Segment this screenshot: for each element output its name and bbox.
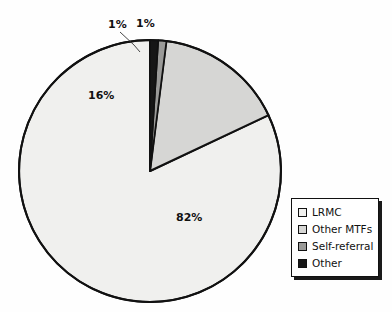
- legend-swatch-other: [298, 259, 307, 268]
- legend-item-lrmc[interactable]: LRMC: [298, 204, 373, 220]
- legend-swatch-other-mtfs: [298, 225, 307, 234]
- slice-label-other: 1%: [136, 17, 155, 30]
- chart-legend: LRMC Other MTFs Self-referral Other: [291, 198, 379, 277]
- legend-swatch-lrmc: [298, 208, 307, 217]
- slice-label-lrmc: 82%: [176, 211, 202, 224]
- legend-label-self-referral: Self-referral: [312, 240, 373, 252]
- legend-swatch-self-referral: [298, 242, 307, 251]
- legend-label-lrmc: LRMC: [312, 206, 342, 218]
- legend-item-other-mtfs[interactable]: Other MTFs: [298, 221, 373, 237]
- legend-item-self-referral[interactable]: Self-referral: [298, 238, 373, 254]
- legend-label-other: Other: [312, 257, 342, 269]
- legend-item-other[interactable]: Other: [298, 255, 373, 271]
- legend-label-other-mtfs: Other MTFs: [312, 223, 372, 235]
- slice-label-self-referral: 1%: [108, 18, 127, 31]
- slice-label-other-mtfs: 16%: [88, 89, 114, 102]
- pie-chart-figure: 1% 1% 16% 82% LRMC Other MTFs Self-refer…: [0, 0, 392, 312]
